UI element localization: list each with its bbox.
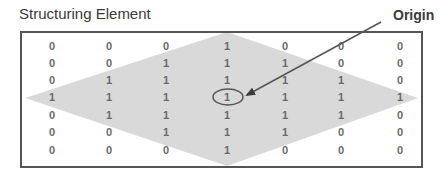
origin-circle xyxy=(213,89,243,105)
origin-arrow xyxy=(247,22,381,95)
annotation-layer xyxy=(0,0,446,177)
